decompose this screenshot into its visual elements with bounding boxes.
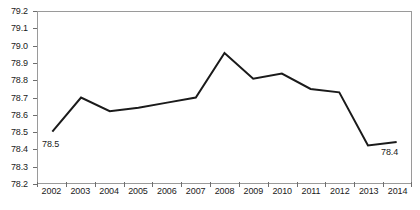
x-tick-label: 2012	[330, 187, 350, 196]
data-label-last-point: 78.4	[381, 148, 398, 157]
y-tick-label: 78.8	[11, 76, 28, 85]
x-tick-mark	[124, 182, 125, 187]
x-tick-label: 2014	[388, 187, 408, 196]
x-tick-mark	[95, 182, 96, 187]
x-tick-label: 2009	[244, 187, 264, 196]
series-line-svg	[38, 12, 411, 183]
data-label-first-point: 78.5	[42, 140, 59, 149]
x-tick-mark	[383, 182, 384, 187]
x-tick-mark	[152, 182, 153, 187]
x-tick-mark	[37, 182, 38, 187]
x-tick-label: 2010	[272, 187, 292, 196]
y-tick-label: 79.0	[11, 41, 28, 50]
x-tick-mark	[354, 182, 355, 187]
y-tick-label: 78.4	[11, 145, 28, 154]
x-tick-mark	[411, 182, 412, 187]
y-tick-label: 78.7	[11, 93, 28, 102]
x-tick-label: 2007	[186, 187, 206, 196]
series-line	[52, 53, 396, 145]
y-tick-label: 78.9	[11, 58, 28, 67]
x-tick-label: 2006	[157, 187, 177, 196]
y-tick-label: 79.2	[11, 7, 28, 16]
plot-area	[37, 11, 412, 184]
x-tick-mark	[325, 182, 326, 187]
y-tick-label: 78.3	[11, 162, 28, 171]
line-chart: 79.279.179.078.978.878.778.678.578.478.3…	[0, 0, 420, 210]
y-tick-label: 79.1	[11, 24, 28, 33]
x-tick-label: 2003	[70, 187, 90, 196]
x-tick-mark	[181, 182, 182, 187]
y-tick-label: 78.6	[11, 110, 28, 119]
x-tick-mark	[239, 182, 240, 187]
x-axis: 2002200320042005200620072008200920102011…	[37, 187, 412, 203]
x-tick-label: 2008	[215, 187, 235, 196]
x-tick-mark	[66, 182, 67, 187]
y-tick-label: 78.5	[11, 128, 28, 137]
x-tick-mark	[210, 182, 211, 187]
x-tick-label: 2011	[302, 187, 321, 196]
x-tick-label: 2004	[99, 187, 119, 196]
x-tick-label: 2013	[359, 187, 379, 196]
x-tick-label: 2002	[42, 187, 62, 196]
y-tick-label: 78.2	[11, 180, 28, 189]
x-tick-mark	[297, 182, 298, 187]
x-tick-mark	[268, 182, 269, 187]
x-tick-label: 2005	[128, 187, 148, 196]
y-axis: 79.279.179.078.978.878.778.678.578.478.3…	[0, 0, 33, 210]
